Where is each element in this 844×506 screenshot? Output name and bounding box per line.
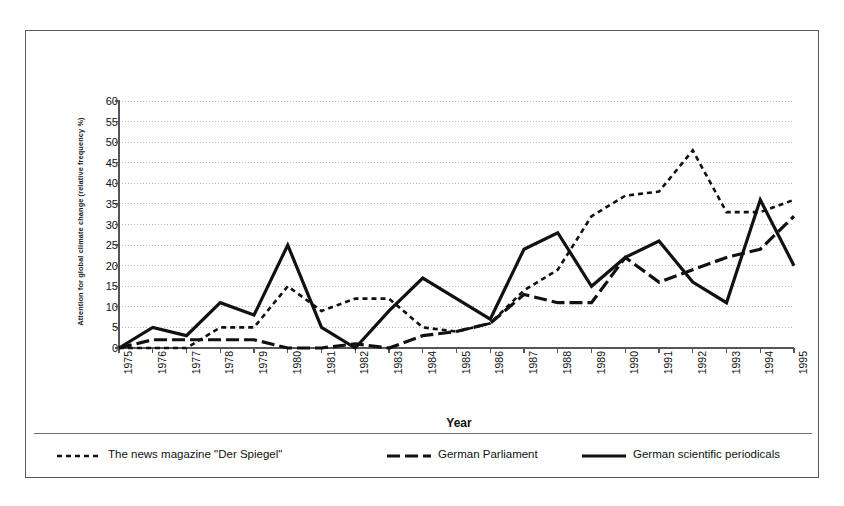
chart-figure: Attention for global climate change (rel… (0, 0, 844, 506)
figure-frame: Attention for global climate change (rel… (25, 30, 819, 478)
legend-divider (34, 433, 812, 434)
legend-label: German Parliament (438, 448, 538, 460)
gridlines (119, 101, 794, 327)
legend-swatch-dotted-icon (56, 448, 102, 460)
plot-area: Attention for global climate change (rel… (26, 31, 820, 479)
legend-label: German scientific periodicals (633, 448, 780, 460)
x-axis-tick-labels: 1975197619771978197919801981198219831984… (26, 353, 820, 413)
series-line-2 (119, 200, 794, 348)
legend-label: The news magazine "Der Spiegel" (108, 448, 282, 460)
x-tick-label: 1975 (123, 351, 134, 397)
x-tick-label: 1994 (764, 351, 775, 397)
legend-swatch-dashed-icon (386, 448, 432, 460)
legend-item-0[interactable]: The news magazine "Der Spiegel" (56, 443, 282, 465)
x-tick-label: 1981 (326, 351, 337, 397)
axis-ticks (115, 101, 794, 353)
legend-swatch-solid-icon (581, 448, 627, 460)
x-tick-label: 1988 (562, 351, 573, 397)
x-tick-label: 1991 (663, 351, 674, 397)
x-tick-label: 1987 (528, 351, 539, 397)
x-tick-label: 1976 (157, 351, 168, 397)
legend-item-1[interactable]: German Parliament (386, 443, 538, 465)
x-tick-label: 1995 (798, 351, 809, 397)
x-tick-label: 1984 (427, 351, 438, 397)
x-axis-title: Year (26, 416, 820, 430)
x-tick-label: 1978 (224, 351, 235, 397)
x-tick-label: 1986 (494, 351, 505, 397)
x-tick-label: 1989 (596, 351, 607, 397)
x-tick-label: 1980 (292, 351, 303, 397)
x-tick-label: 1979 (258, 351, 269, 397)
x-tick-label: 1977 (191, 351, 202, 397)
series-line-0 (119, 150, 794, 348)
data-series-layer (119, 150, 794, 348)
legend-item-2[interactable]: German scientific periodicals (581, 443, 780, 465)
x-tick-label: 1982 (359, 351, 370, 397)
x-tick-label: 1983 (393, 351, 404, 397)
x-tick-label: 1992 (697, 351, 708, 397)
x-tick-label: 1985 (461, 351, 472, 397)
x-tick-label: 1993 (731, 351, 742, 397)
chart-legend: The news magazine "Der Spiegel"German Pa… (26, 443, 820, 473)
x-tick-label: 1990 (629, 351, 640, 397)
